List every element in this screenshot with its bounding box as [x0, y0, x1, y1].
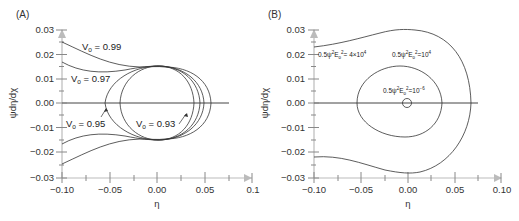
panel-a-xtick-label: 0.1	[246, 184, 259, 195]
panel-b-xtick-label: 0.10	[493, 184, 512, 195]
panel-a-xtick-label: −0.05	[98, 184, 122, 195]
panel-a-x-axis-title: η	[154, 198, 159, 209]
annotation-1e-6: 0.5ψ2Eo2=10−6	[383, 86, 425, 96]
panel-b-label: (B)	[268, 9, 281, 20]
panel-a-ytick-label: −0.03	[30, 172, 54, 183]
panel-a-ytick-label: 0.01	[36, 73, 55, 84]
panel-b-ytick-label: 0.00	[287, 97, 306, 108]
panel-a-y-axis-title: ψdη/dχ	[7, 88, 18, 118]
panel-b-ytick-label: 0.01	[287, 73, 306, 84]
annotation-4e4: 0.5ψ2Eo2= 4×104	[318, 50, 367, 60]
figure: (A)	[0, 0, 519, 221]
panel-a-label: (A)	[16, 9, 29, 20]
panel-a-xtick-label: −0.10	[50, 184, 74, 195]
panel-a-ytick-label: 0.00	[36, 97, 55, 108]
panel-b: (B)	[259, 9, 511, 209]
panel-a-xtick-label: 0.05	[196, 184, 215, 195]
annotation-v0-0.99: Vo = 0.99	[82, 41, 121, 53]
panel-a-ytick-label: 0.03	[36, 24, 55, 35]
panel-b-xtick-label: −0.10	[302, 184, 326, 195]
panel-b-xtick-label: 0.05	[446, 184, 465, 195]
panel-b-ytick-label: −0.03	[281, 172, 305, 183]
curve-1e4	[357, 66, 442, 137]
panel-b-ytick-label: 0.03	[287, 24, 306, 35]
annotation-1e4: 0.5ψ2Eo2=104	[392, 50, 432, 60]
panel-a-x-axis-arrow-icon	[244, 174, 252, 182]
annotation-v0-0.93: Vo = 0.93	[136, 118, 175, 130]
panel-b-y-axis-title: ψdη/dχ	[259, 88, 270, 118]
panel-a-ytick-label: −0.02	[30, 146, 54, 157]
panel-b-xtick-label: 0.00	[399, 184, 418, 195]
panel-b-xtick-label: −0.05	[349, 184, 373, 195]
annotation-v0-0.97: Vo = 0.97	[71, 73, 110, 85]
annotation-v0-0.95: Vo = 0.95	[66, 118, 105, 130]
panel-a-ytick-label: −0.01	[30, 122, 54, 133]
panel-b-ytick-label: 0.02	[287, 49, 306, 60]
panel-b-ytick-label: −0.01	[281, 122, 305, 133]
panel-a-xtick-label: 0.00	[148, 184, 167, 195]
panel-a-ytick-label: 0.02	[36, 49, 55, 60]
panel-b-x-axis-title: η	[405, 198, 410, 209]
panel-b-ytick-label: −0.02	[281, 146, 305, 157]
panel-a: (A)	[7, 9, 260, 209]
